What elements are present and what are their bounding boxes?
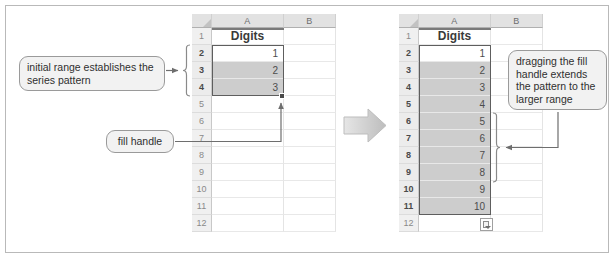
- cell-a[interactable]: 8: [419, 164, 491, 181]
- table-row[interactable]: 9: [192, 164, 336, 181]
- row-header[interactable]: 10: [399, 181, 419, 198]
- cell-b[interactable]: [284, 79, 336, 96]
- right-column-headers: A B: [399, 14, 543, 28]
- table-row[interactable]: 76: [399, 130, 543, 147]
- cell-b[interactable]: [284, 62, 336, 79]
- column-header-a[interactable]: A: [419, 14, 491, 28]
- column-header-a[interactable]: A: [212, 14, 284, 28]
- row-header[interactable]: 6: [192, 113, 212, 130]
- row-header[interactable]: 2: [399, 45, 419, 62]
- cell-a[interactable]: [212, 198, 284, 215]
- cell-a[interactable]: 7: [419, 147, 491, 164]
- figure-root: A B 1Digits21324356789101112 A B 1Digits…: [0, 0, 616, 260]
- row-header[interactable]: 12: [192, 215, 212, 232]
- cell-a[interactable]: 4: [419, 96, 491, 113]
- cell-a[interactable]: 2: [212, 62, 284, 79]
- cell-b[interactable]: [284, 181, 336, 198]
- autofill-options-icon[interactable]: [480, 218, 493, 231]
- cell-b[interactable]: [284, 147, 336, 164]
- row-header[interactable]: 1: [192, 28, 212, 45]
- table-row[interactable]: 8: [192, 147, 336, 164]
- row-header[interactable]: 5: [399, 96, 419, 113]
- cell-b[interactable]: [284, 45, 336, 62]
- row-header[interactable]: 9: [399, 164, 419, 181]
- column-header-b[interactable]: B: [284, 14, 336, 28]
- right-spreadsheet: A B 1Digits2132435465768798109111012: [399, 14, 545, 240]
- row-header[interactable]: 2: [192, 45, 212, 62]
- cell-a[interactable]: 9: [419, 181, 491, 198]
- cell-a[interactable]: [212, 130, 284, 147]
- cell-a[interactable]: [212, 147, 284, 164]
- table-row[interactable]: 1Digits: [192, 28, 336, 45]
- cell-b[interactable]: [491, 164, 543, 181]
- cell-b[interactable]: [284, 28, 336, 45]
- table-row[interactable]: 6: [192, 113, 336, 130]
- row-header[interactable]: 3: [399, 62, 419, 79]
- cell-a[interactable]: [212, 181, 284, 198]
- row-header[interactable]: 12: [399, 215, 419, 232]
- cell-a[interactable]: 3: [419, 79, 491, 96]
- table-row[interactable]: 109: [399, 181, 543, 198]
- row-header[interactable]: 7: [192, 130, 212, 147]
- cell-a[interactable]: 10: [419, 198, 491, 215]
- cell-a[interactable]: [212, 96, 284, 113]
- cell-b[interactable]: [491, 198, 543, 215]
- select-all-corner[interactable]: [192, 14, 212, 28]
- table-row[interactable]: 32: [192, 62, 336, 79]
- table-row[interactable]: 21: [192, 45, 336, 62]
- cell-b[interactable]: [284, 215, 336, 232]
- row-header[interactable]: 4: [192, 79, 212, 96]
- cell-a[interactable]: [212, 164, 284, 181]
- row-header[interactable]: 4: [399, 79, 419, 96]
- row-header[interactable]: 1: [399, 28, 419, 45]
- cell-a[interactable]: [212, 215, 284, 232]
- table-row[interactable]: 65: [399, 113, 543, 130]
- cell-a[interactable]: 5: [419, 113, 491, 130]
- cell-b[interactable]: [284, 130, 336, 147]
- row-header[interactable]: 8: [192, 147, 212, 164]
- cell-b[interactable]: [491, 147, 543, 164]
- table-row[interactable]: 12: [192, 215, 336, 232]
- cell-a[interactable]: 1: [419, 45, 491, 62]
- table-row[interactable]: 1110: [399, 198, 543, 215]
- select-all-corner[interactable]: [399, 14, 419, 28]
- cell-a[interactable]: 6: [419, 130, 491, 147]
- row-header[interactable]: 11: [192, 198, 212, 215]
- row-header[interactable]: 6: [399, 113, 419, 130]
- table-row[interactable]: 1Digits: [399, 28, 543, 45]
- table-row[interactable]: 5: [192, 96, 336, 113]
- row-header[interactable]: 5: [192, 96, 212, 113]
- cell-b[interactable]: [284, 164, 336, 181]
- row-header[interactable]: 8: [399, 147, 419, 164]
- cell-b[interactable]: [491, 215, 543, 232]
- cell-b[interactable]: [491, 181, 543, 198]
- table-row[interactable]: 11: [192, 198, 336, 215]
- row-header[interactable]: 3: [192, 62, 212, 79]
- row-header[interactable]: 10: [192, 181, 212, 198]
- column-a-title-cell[interactable]: Digits: [212, 28, 284, 45]
- table-row[interactable]: 7: [192, 130, 336, 147]
- row-header[interactable]: 11: [399, 198, 419, 215]
- cell-a[interactable]: [212, 113, 284, 130]
- cell-b[interactable]: [491, 113, 543, 130]
- cell-b[interactable]: [284, 96, 336, 113]
- cell-b[interactable]: [491, 130, 543, 147]
- cell-b[interactable]: [491, 28, 543, 45]
- cell-a[interactable]: 1: [212, 45, 284, 62]
- callout-dragging-text: dragging the fill handle extends the pat…: [516, 55, 595, 105]
- table-row[interactable]: 98: [399, 164, 543, 181]
- column-header-b[interactable]: B: [491, 14, 543, 28]
- row-header[interactable]: 9: [192, 164, 212, 181]
- cell-a[interactable]: 2: [419, 62, 491, 79]
- fill-handle-marker[interactable]: [279, 93, 285, 99]
- cell-b[interactable]: [284, 198, 336, 215]
- table-row[interactable]: 43: [192, 79, 336, 96]
- column-a-title-cell[interactable]: Digits: [419, 28, 491, 45]
- cell-a[interactable]: 3: [212, 79, 284, 96]
- table-row[interactable]: 10: [192, 181, 336, 198]
- cell-b[interactable]: [284, 113, 336, 130]
- table-row[interactable]: 87: [399, 147, 543, 164]
- row-header[interactable]: 7: [399, 130, 419, 147]
- table-row[interactable]: 12: [399, 215, 543, 232]
- chevron-down-icon: [485, 226, 491, 229]
